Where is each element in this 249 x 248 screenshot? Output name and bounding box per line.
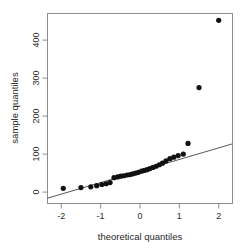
qq-plot-figure: theoretical quantiles sample quantiles -… [0, 0, 249, 248]
y-tick-label-300: 300 [31, 71, 41, 86]
y-tick-label-0: 0 [31, 190, 41, 195]
data-point [94, 183, 99, 188]
data-point [88, 184, 93, 189]
y-tick-label-100: 100 [31, 147, 41, 162]
x-tick-label-0: 0 [137, 211, 142, 221]
data-point [78, 185, 83, 190]
y-tick-label-400: 400 [31, 33, 41, 48]
data-point [185, 141, 190, 146]
y-axis-title: sample quantiles [9, 72, 20, 143]
data-point [61, 186, 66, 191]
data-point [176, 153, 181, 158]
data-point [196, 85, 201, 90]
x-tick-label-2: 2 [216, 211, 221, 221]
x-tick-label--2: -2 [57, 211, 65, 221]
x-tick-label--1: -1 [97, 211, 105, 221]
data-point [181, 152, 186, 157]
y-tick-label-200: 200 [31, 109, 41, 124]
data-point [107, 180, 112, 185]
data-point [99, 182, 104, 187]
x-tick-label-1: 1 [177, 211, 182, 221]
data-point [216, 18, 221, 23]
x-axis-title: theoretical quantiles [98, 231, 183, 242]
